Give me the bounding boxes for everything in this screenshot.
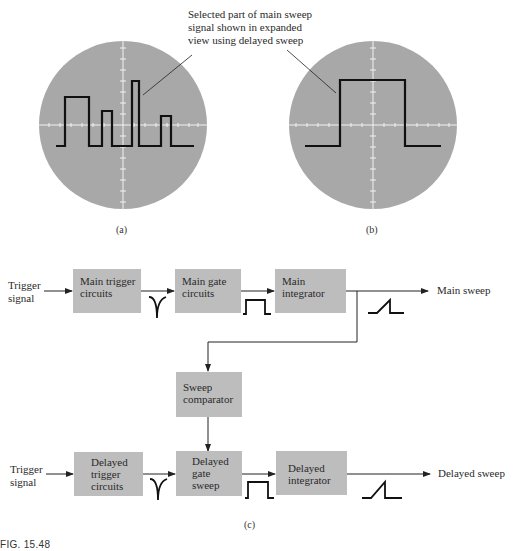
main-trigger-input-label-2: signal: [8, 292, 34, 304]
delayed-sweep-ramp-icon: [362, 482, 402, 498]
main-trigger-input-label-1: Trigger: [8, 279, 41, 291]
main-row-connectors: [44, 291, 428, 451]
annotation-line-1: Selected part of main sweep: [188, 8, 312, 20]
main-gate-circuits-block: Main gate circuits: [175, 269, 241, 313]
delayed-trigger-input-label-2: signal: [10, 476, 36, 488]
main-sweep-output-label: Main sweep: [437, 284, 490, 296]
sweep-comparator-block: Sweep comparator: [176, 372, 242, 417]
sublabel-c: (c): [244, 519, 255, 530]
sweep-ramp-icon: [368, 300, 404, 313]
delayed-integrator-block: Delayed integrator: [276, 451, 347, 495]
annotation-line-3: view using delayed sweep: [188, 34, 303, 46]
sublabel-a: (a): [116, 224, 127, 235]
annotation-line-2: signal shown in expanded: [188, 21, 302, 33]
delayed-trigger-spike-icon: [150, 479, 167, 500]
main-trigger-circuits-block: Main trigger circuits: [73, 269, 141, 313]
delayed-trigger-circuits-block: Delayed trigger circuits: [74, 452, 143, 496]
sublabel-b: (b): [366, 224, 378, 235]
main-integrator-block: Main integrator: [275, 269, 346, 313]
delayed-gate-pulse-icon: [245, 482, 274, 498]
scope-a: [39, 41, 207, 210]
gate-pulse-icon: [243, 300, 271, 314]
trigger-spike-icon: [149, 297, 166, 318]
delayed-trigger-input-label-1: Trigger: [10, 463, 43, 475]
scope-b: [287, 41, 457, 210]
delayed-sweep-output-label: Delayed sweep: [438, 467, 505, 479]
figure-number: FIG. 15.48: [0, 539, 50, 550]
delayed-gate-sweep-block: Delayed gate sweep: [176, 451, 242, 496]
